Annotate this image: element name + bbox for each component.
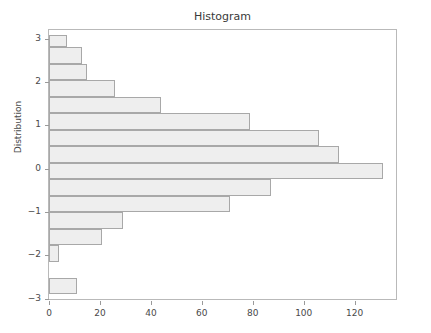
y-tick-label: −3 — [9, 293, 41, 303]
x-tick-label: 0 — [29, 308, 69, 318]
bar-series — [49, 30, 396, 299]
chart-title: Histogram — [48, 10, 397, 23]
histogram-bar — [49, 212, 123, 228]
x-tick-mark — [49, 301, 50, 305]
histogram-bar — [49, 47, 82, 63]
x-tick-label: 80 — [233, 308, 273, 318]
y-tick-mark — [45, 39, 49, 40]
x-tick-mark — [355, 301, 356, 305]
y-tick-label: 3 — [9, 33, 41, 43]
x-tick-label: 20 — [80, 308, 120, 318]
y-tick-label: −2 — [9, 249, 41, 259]
histogram-bar — [49, 278, 77, 294]
x-tick-label: 40 — [131, 308, 171, 318]
histogram-bar — [49, 146, 339, 162]
histogram-bar — [49, 196, 230, 212]
histogram-bar — [49, 35, 67, 47]
histogram-bar — [49, 163, 383, 179]
y-tick-mark — [45, 125, 49, 126]
histogram-figure: Histogram Distribution 020406080100120 3… — [0, 0, 431, 333]
plot-area: 020406080100120 3210−1−2−3 — [48, 29, 397, 300]
histogram-bar — [49, 64, 87, 80]
histogram-bar — [49, 179, 271, 195]
histogram-bar — [49, 245, 59, 261]
y-tick-mark — [45, 255, 49, 256]
x-tick-mark — [202, 301, 203, 305]
y-tick-label: −1 — [9, 206, 41, 216]
y-tick-mark — [45, 82, 49, 83]
y-tick-label: 0 — [9, 163, 41, 173]
x-tick-mark — [253, 301, 254, 305]
histogram-bar — [49, 130, 319, 146]
x-tick-label: 100 — [284, 308, 324, 318]
y-tick-label: 2 — [9, 76, 41, 86]
histogram-bar — [49, 80, 115, 96]
histogram-bar — [49, 229, 102, 245]
histogram-bar — [49, 97, 161, 113]
y-tick-mark — [45, 169, 49, 170]
x-tick-label: 60 — [182, 308, 222, 318]
x-tick-mark — [151, 301, 152, 305]
y-tick-label: 1 — [9, 119, 41, 129]
x-tick-mark — [100, 301, 101, 305]
y-tick-mark — [45, 299, 49, 300]
x-tick-label: 120 — [335, 308, 375, 318]
histogram-bar — [49, 113, 250, 129]
y-tick-mark — [45, 212, 49, 213]
x-tick-mark — [304, 301, 305, 305]
